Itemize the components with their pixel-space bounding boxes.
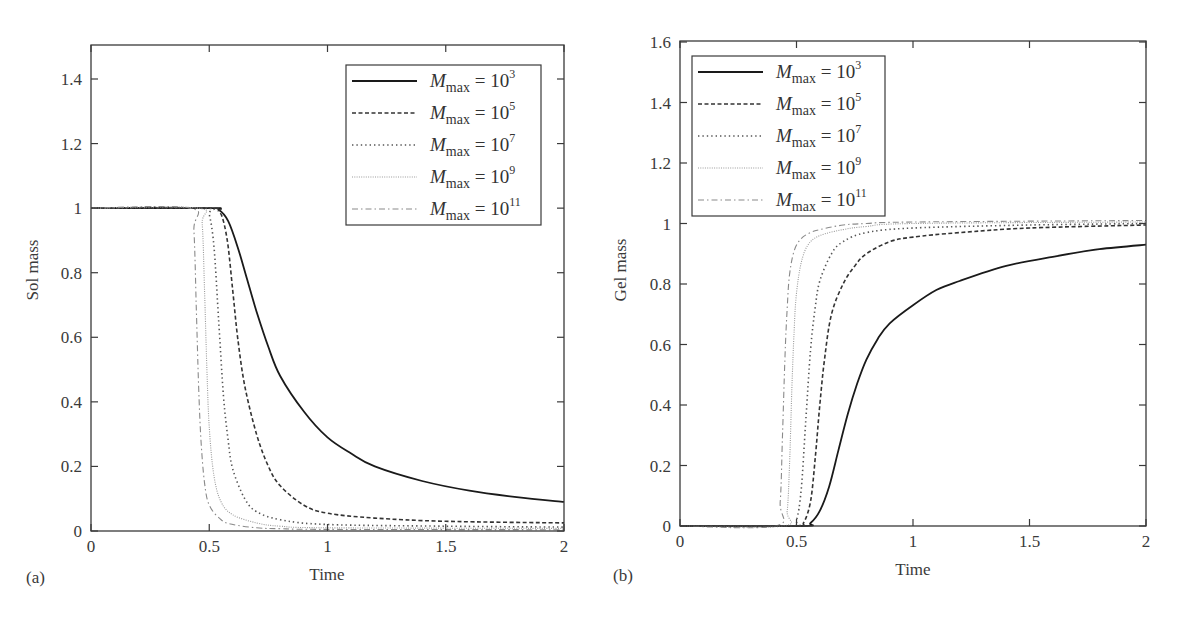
- x-axis-label: Time: [895, 560, 930, 579]
- y-tick-label: 1.2: [650, 154, 671, 173]
- legend-entry-label: Mmax = 1011: [775, 186, 867, 214]
- legend-entry-label: Mmax = 103: [775, 58, 861, 86]
- panel-tag-b: (b): [613, 566, 633, 585]
- legend-entry-label: Mmax = 109: [775, 154, 861, 182]
- y-tick-label: 0.8: [650, 275, 671, 294]
- series-line: [680, 224, 1146, 527]
- x-tick-label: 1: [909, 532, 918, 551]
- y-tick-label: 1.6: [650, 33, 671, 52]
- y-axis-label: Gel mass: [611, 239, 630, 302]
- gel-mass-plot: 00.511.5200.20.40.60.811.21.41.6 Mmax = …: [0, 0, 1178, 618]
- y-tick-label: 1.4: [650, 94, 672, 113]
- x-tick-label: 1.5: [1019, 532, 1040, 551]
- legend-entry-label: Mmax = 107: [775, 122, 861, 150]
- series-line: [680, 221, 1146, 528]
- gel-mass-curves: [680, 221, 1146, 528]
- y-tick-label: 0.4: [650, 396, 672, 415]
- y-tick-label: 1: [663, 215, 672, 234]
- y-tick-label: 0.6: [650, 336, 671, 355]
- series-line: [680, 245, 1146, 527]
- series-line: [680, 222, 1146, 527]
- x-tick-label: 0: [676, 532, 685, 551]
- x-tick-label: 2: [1142, 532, 1151, 551]
- x-tick-label: 0.5: [786, 532, 807, 551]
- gel-mass-legend: Mmax = 103Mmax = 105Mmax = 107Mmax = 109…: [692, 56, 885, 216]
- y-tick-label: 0: [663, 517, 672, 536]
- panel-b-gel-mass-chart: 00.511.5200.20.40.60.811.21.41.6 Mmax = …: [0, 0, 1178, 618]
- legend-entry-label: Mmax = 105: [775, 90, 861, 118]
- y-tick-label: 0.2: [650, 457, 671, 476]
- series-line: [680, 225, 1146, 526]
